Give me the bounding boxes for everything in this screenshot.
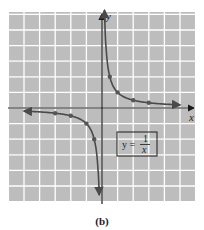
- equation-numerator: 1: [143, 133, 148, 144]
- figure-caption: (b): [0, 215, 204, 227]
- y-axis-label: y: [105, 10, 111, 22]
- data-point: [115, 90, 119, 94]
- data-point: [69, 114, 73, 118]
- data-point: [92, 137, 96, 141]
- data-point: [131, 98, 135, 102]
- data-point: [53, 111, 57, 115]
- data-point: [84, 121, 88, 125]
- data-point: [108, 75, 112, 79]
- equation-denominator: x: [141, 144, 147, 155]
- equation-lhs: y =: [122, 139, 136, 150]
- data-point: [147, 101, 151, 105]
- hyperbola-plot: xyy =1x: [0, 0, 204, 230]
- x-axis-label: x: [188, 111, 194, 123]
